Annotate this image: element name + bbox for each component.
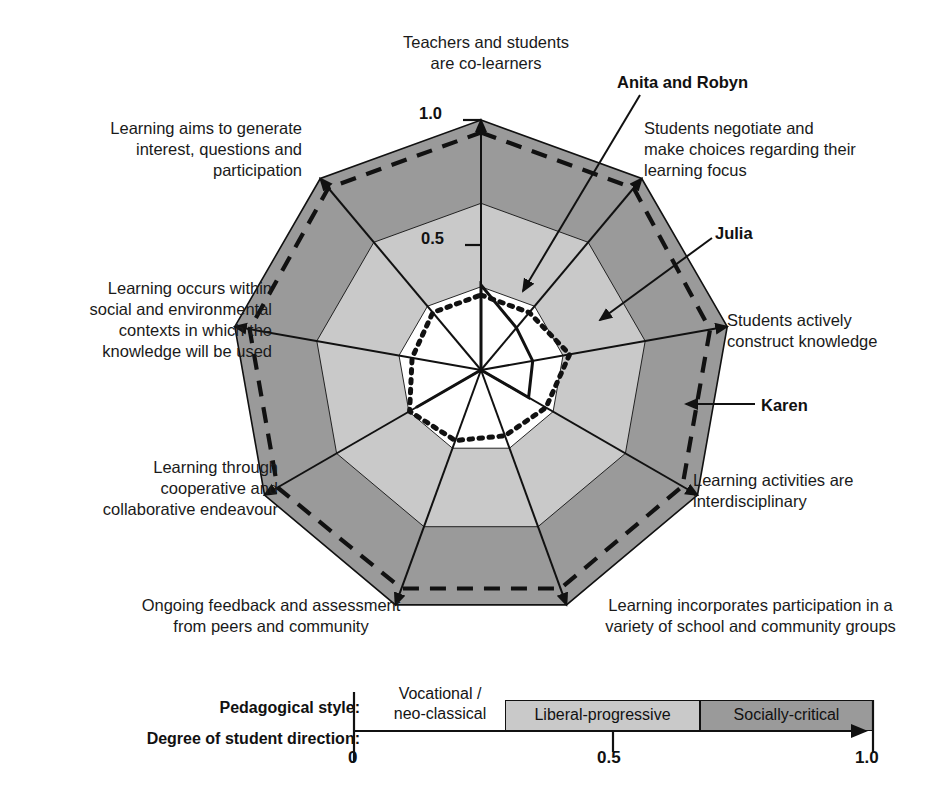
scale-tick-label-0-5: 0.5 <box>597 748 621 768</box>
scale-axis <box>0 0 937 810</box>
scale-tick-label-0: 0 <box>348 748 357 768</box>
scale-tick-label-1-0: 1.0 <box>855 748 879 768</box>
radar-figure: 1.0 0.5 Teachers and students are co-lea… <box>0 0 937 810</box>
